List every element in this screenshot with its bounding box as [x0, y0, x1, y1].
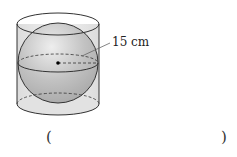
answer-open-paren: ( [46, 128, 52, 146]
answer-close-paren: ) [221, 128, 227, 146]
radius-label: 15 cm [112, 35, 149, 49]
center-point [56, 61, 60, 65]
answer-blank[interactable] [60, 128, 215, 146]
